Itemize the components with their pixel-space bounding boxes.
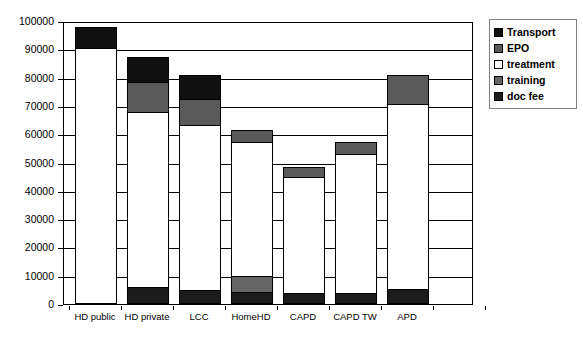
bar-stack: [127, 21, 169, 304]
legend-swatch-icon: [494, 44, 503, 53]
y-axis-tick-label: 10000: [2, 271, 54, 281]
bar-stack: [179, 21, 221, 304]
x-axis-tick: [433, 306, 434, 310]
y-axis-tick-label: 0: [2, 299, 54, 309]
y-axis-tick-label: 60000: [2, 129, 54, 139]
x-axis-tick: [121, 306, 122, 310]
bar-segment-doc-fee: [283, 293, 325, 304]
y-axis-tick-label: 50000: [2, 158, 54, 168]
legend-label: EPO: [507, 43, 529, 54]
bar-stack: [231, 21, 273, 304]
plot-area: [63, 22, 473, 305]
bar-segment-doc-fee: [179, 290, 221, 304]
x-axis-tick: [485, 306, 486, 310]
bar-segment-doc-fee: [335, 293, 377, 304]
bar-stack: [387, 21, 429, 304]
bar-stack: [75, 21, 117, 304]
x-axis-tick: [381, 306, 382, 310]
bar-segment-treatment: [283, 177, 325, 293]
bar-segment-epo: [127, 82, 169, 113]
bar-segment-treatment: [335, 154, 377, 293]
legend-label: treatment: [507, 59, 555, 70]
y-axis-tick-label: 30000: [2, 214, 54, 224]
bar-segment-epo: [387, 75, 429, 105]
y-axis-tick-label: 100000: [2, 16, 54, 26]
bar-segment-epo: [231, 130, 273, 142]
bar-stack: [283, 21, 325, 304]
legend-swatch-icon: [494, 76, 503, 85]
bar-segment-transport: [127, 57, 169, 83]
x-axis-tick: [69, 306, 70, 310]
legend-item: EPO: [494, 40, 573, 56]
legend-swatch-icon: [494, 60, 503, 69]
y-axis-tick-label: 20000: [2, 242, 54, 252]
legend-label: training: [507, 75, 546, 86]
x-axis-tick: [277, 306, 278, 310]
y-axis-tick-label: 40000: [2, 186, 54, 196]
x-axis-label: APD: [375, 311, 439, 322]
legend-item: training: [494, 72, 573, 88]
legend-swatch-icon: [494, 28, 503, 37]
legend-label: Transport: [507, 27, 555, 38]
bar-segment-transport: [179, 75, 221, 100]
y-axis-tick: [58, 305, 63, 306]
legend-item: doc fee: [494, 88, 573, 104]
bar-segment-treatment: [179, 125, 221, 292]
bar-segment-training: [231, 276, 273, 293]
x-axis-tick: [173, 306, 174, 310]
y-axis-tick-label: 90000: [2, 44, 54, 54]
y-axis-tick-label: 80000: [2, 73, 54, 83]
legend: TransportEPOtreatmenttrainingdoc fee: [489, 19, 577, 109]
legend-label: doc fee: [507, 91, 544, 102]
bar-segment-epo: [283, 167, 325, 178]
x-axis-tick: [225, 306, 226, 310]
x-axis-tick: [329, 306, 330, 310]
bar-segment-treatment: [75, 48, 117, 304]
bar-segment-doc-fee: [127, 287, 169, 304]
stacked-bar-chart: 0100002000030000400005000060000700008000…: [0, 0, 583, 349]
legend-swatch-icon: [494, 92, 503, 101]
bar-segment-epo: [179, 99, 221, 125]
legend-item: treatment: [494, 56, 573, 72]
bar-segment-treatment: [231, 142, 273, 277]
bar-segment-epo: [335, 142, 377, 156]
bar-stack: [335, 21, 377, 304]
y-axis-tick-label: 70000: [2, 101, 54, 111]
bar-segment-transport: [75, 27, 117, 49]
legend-item: Transport: [494, 24, 573, 40]
bar-segment-treatment: [387, 104, 429, 290]
bar-segment-doc-fee: [387, 289, 429, 304]
bar-segment-treatment: [127, 112, 169, 288]
bar-segment-doc-fee: [231, 292, 273, 304]
